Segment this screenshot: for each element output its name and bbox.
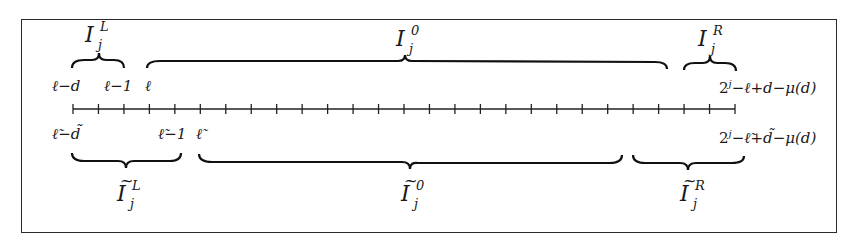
label-Itilde-j-0: ~ I 0 j: [401, 181, 410, 206]
label-top-right-end: 2j−ℓ+d−μ(d): [719, 79, 816, 96]
interval-diagram: I L j I 0 j I R j ℓ−d ℓ−1 ℓ 2j−ℓ+d−μ(d) …: [0, 0, 856, 248]
label-bottom-right-end: 2j−ℓ̃+d̃−μ(d): [719, 129, 816, 146]
label-Itilde-j-R: ~ I R j: [680, 181, 689, 206]
brace-top-interior: [147, 55, 667, 69]
label-ltilde-minus-dtilde: ℓ̃−d̃: [52, 127, 80, 142]
label-l: ℓ: [145, 79, 151, 94]
label-ltilde-minus-1: ℓ̃−1: [158, 127, 186, 142]
label-I-j-0: I 0 j: [396, 26, 405, 51]
brace-top-left: [72, 53, 124, 68]
brace-bottom-left: [72, 153, 181, 168]
brace-bottom-interior: [199, 154, 622, 169]
brace-bottom-right: [633, 155, 744, 170]
label-Itilde-j-L: ~ I L j: [117, 181, 126, 206]
label-I-j-R: I R j: [698, 26, 707, 51]
label-I-j-L: I L j: [85, 22, 94, 47]
label-l-minus-d: ℓ−d: [52, 79, 80, 94]
label-l-minus-1: ℓ−1: [104, 79, 132, 94]
diagram-graphics: [0, 0, 856, 248]
brace-top-right: [684, 56, 736, 71]
label-ltilde: ℓ̃: [196, 127, 202, 142]
